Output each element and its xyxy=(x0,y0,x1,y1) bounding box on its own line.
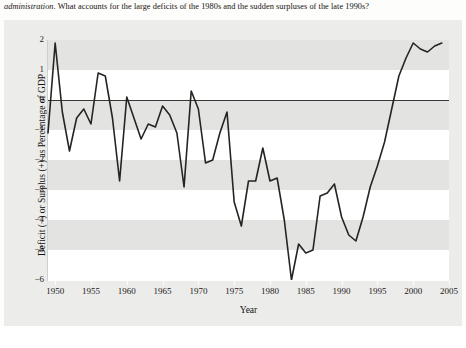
x-tick-mark xyxy=(413,281,414,285)
y-tick-label: 1 xyxy=(22,64,44,74)
x-tick-mark xyxy=(234,281,235,285)
y-tick-label: −1 xyxy=(22,124,44,134)
x-tick-label: 1965 xyxy=(143,286,183,296)
figure-page: administration. What accounts for the la… xyxy=(0,0,466,348)
x-tick-label: 2005 xyxy=(429,286,466,296)
page-bottom-margin xyxy=(0,326,466,348)
x-axis-tick-labels: 1950195519601965197019751980198519901995… xyxy=(48,286,449,300)
x-tick-mark xyxy=(55,281,56,285)
caption-italic-lead: administration xyxy=(4,2,54,11)
x-tick-label: 1995 xyxy=(357,286,397,296)
x-tick-label: 1975 xyxy=(214,286,254,296)
x-tick-label: 1990 xyxy=(322,286,362,296)
y-tick-label: −6 xyxy=(22,274,44,284)
chart-panel: Deficit (−) or Surplus (+) as Percentage… xyxy=(4,20,462,326)
x-tick-label: 2000 xyxy=(393,286,433,296)
x-tick-label: 1980 xyxy=(250,286,290,296)
y-tick-label: −4 xyxy=(22,214,44,224)
figure-caption: administration. What accounts for the la… xyxy=(4,0,462,16)
x-tick-mark xyxy=(306,281,307,285)
x-tick-label: 1950 xyxy=(35,286,75,296)
x-tick-mark xyxy=(377,281,378,285)
y-axis-tick-labels: 210−1−2−3−4−5−6 xyxy=(18,40,44,280)
x-tick-mark xyxy=(342,281,343,285)
caption-text: . What accounts for the large deficits o… xyxy=(54,2,370,11)
y-tick-label: 0 xyxy=(22,94,44,104)
x-tick-mark xyxy=(127,281,128,285)
x-tick-mark xyxy=(163,281,164,285)
deficit-surplus-line xyxy=(48,40,449,280)
y-tick-label: −5 xyxy=(22,244,44,254)
plot-area xyxy=(48,40,449,280)
x-tick-label: 1985 xyxy=(286,286,326,296)
x-tick-label: 1955 xyxy=(71,286,111,296)
x-tick-label: 1970 xyxy=(178,286,218,296)
x-tick-mark xyxy=(198,281,199,285)
x-tick-mark xyxy=(91,281,92,285)
y-tick-label: −3 xyxy=(22,184,44,194)
x-tick-mark xyxy=(449,281,450,285)
x-tick-label: 1960 xyxy=(107,286,147,296)
x-tick-mark xyxy=(270,281,271,285)
y-tick-label: 2 xyxy=(22,34,44,44)
y-tick-label: −2 xyxy=(22,154,44,164)
x-axis-title: Year xyxy=(48,305,449,315)
